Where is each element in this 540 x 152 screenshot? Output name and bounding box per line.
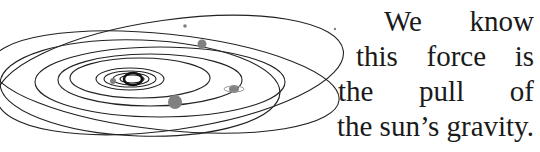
planet-medium-icon xyxy=(198,40,207,49)
planet-inner-icon xyxy=(110,78,116,84)
paragraph-text: We know this force is the pull of the su… xyxy=(334,4,534,144)
planet-small-icon xyxy=(183,24,187,28)
text-line-1: We know xyxy=(334,4,534,39)
orbit-outer-2 xyxy=(0,16,344,148)
text-line-2: this force is xyxy=(334,39,534,74)
orbit-outer-1 xyxy=(0,0,351,152)
text-line-3: the pull of xyxy=(334,74,534,109)
text-line-4: the sun’s gravity. xyxy=(316,109,534,144)
planet-large-icon xyxy=(168,95,182,109)
solar-system-illustration xyxy=(0,0,360,152)
orbit-mid-1 xyxy=(35,47,285,117)
orbit-mid-3 xyxy=(70,58,210,98)
orbit-outer-3 xyxy=(0,35,282,141)
